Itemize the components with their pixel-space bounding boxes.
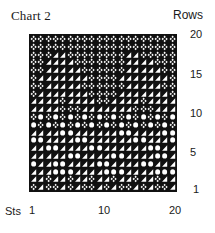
lattice-cross-cell (52, 43, 59, 51)
lattice-cross-cell (118, 43, 125, 51)
lattice-cross-cell (110, 58, 117, 66)
triangle-cell (161, 144, 168, 152)
stitch-tick-20: 20 (169, 204, 181, 216)
triangle-cell (147, 175, 154, 183)
lattice-cross-cell (37, 82, 44, 90)
lattice-cross-cell (88, 43, 95, 51)
lattice-cross-cell (154, 121, 161, 129)
lattice-cross-cell (147, 43, 154, 51)
triangle-cell (74, 90, 81, 98)
triangle-cell (125, 152, 132, 160)
triangle-cell (52, 58, 59, 66)
lattice-cross-cell (74, 58, 81, 66)
triangle-cell (88, 160, 95, 168)
lattice-cross-cell (125, 43, 132, 51)
triangle-cell (74, 160, 81, 168)
triangle-cell (125, 105, 132, 113)
triangle-cell (125, 58, 132, 66)
lattice-cross-cell (154, 35, 161, 43)
lattice-cross-cell (45, 35, 52, 43)
lattice-cross-cell (110, 35, 117, 43)
row-tick-1: 1 (193, 183, 199, 195)
triangle-cell (147, 129, 154, 137)
chart-title: Chart 2 (11, 8, 51, 24)
circle-cell (88, 121, 95, 129)
lattice-cross-cell (161, 51, 168, 59)
triangle-cell (45, 129, 52, 137)
circle-cell (118, 121, 125, 129)
lattice-cross-cell (81, 121, 88, 129)
triangle-cell (37, 97, 44, 105)
lattice-cross-cell (118, 51, 125, 59)
triangle-cell (52, 152, 59, 160)
lattice-cross-cell (118, 183, 125, 191)
triangle-cell (132, 129, 139, 137)
triangle-cell (88, 97, 95, 105)
lattice-cross-cell (96, 97, 103, 105)
lattice-cross-cell (74, 113, 81, 121)
triangle-cell (125, 136, 132, 144)
circle-cell (169, 129, 176, 137)
triangle-cell (37, 90, 44, 98)
triangle-cell (125, 90, 132, 98)
lattice-cross-cell (118, 58, 125, 66)
triangle-cell (52, 51, 59, 59)
circle-cell (169, 113, 176, 121)
triangle-cell (52, 97, 59, 105)
lattice-cross-cell (147, 51, 154, 59)
lattice-cross-cell (161, 113, 168, 121)
lattice-cross-cell (110, 74, 117, 82)
triangle-cell (154, 82, 161, 90)
triangle-cell (59, 175, 66, 183)
circle-cell (110, 168, 117, 176)
lattice-cross-cell (37, 121, 44, 129)
knitting-chart-grid (29, 34, 177, 192)
lattice-cross-cell (67, 51, 74, 59)
lattice-cross-cell (37, 58, 44, 66)
circle-cell (74, 152, 81, 160)
triangle-cell (81, 90, 88, 98)
circle-cell (154, 113, 161, 121)
triangle-cell (30, 97, 37, 105)
triangle-cell (52, 82, 59, 90)
circle-cell (96, 144, 103, 152)
triangle-cell (74, 144, 81, 152)
triangle-cell (118, 175, 125, 183)
triangle-cell (169, 175, 176, 183)
triangle-cell (37, 144, 44, 152)
lattice-cross-cell (132, 35, 139, 43)
circle-cell (37, 113, 44, 121)
triangle-cell (30, 152, 37, 160)
triangle-cell (96, 168, 103, 176)
triangle-cell (169, 152, 176, 160)
triangle-cell (103, 152, 110, 160)
triangle-cell (140, 168, 147, 176)
triangle-cell (45, 105, 52, 113)
circle-cell (67, 129, 74, 137)
triangle-cell (59, 144, 66, 152)
triangle-cell (67, 90, 74, 98)
lattice-cross-cell (45, 113, 52, 121)
triangle-cell (88, 168, 95, 176)
triangle-cell (74, 183, 81, 191)
triangle-cell (81, 144, 88, 152)
circle-cell (161, 168, 168, 176)
triangle-cell (52, 129, 59, 137)
triangle-cell (147, 58, 154, 66)
lattice-cross-cell (169, 51, 176, 59)
circle-cell (67, 152, 74, 160)
lattice-cross-cell (169, 82, 176, 90)
lattice-cross-cell (169, 74, 176, 82)
triangle-cell (161, 136, 168, 144)
lattice-cross-cell (132, 105, 139, 113)
triangle-cell (110, 160, 117, 168)
triangle-cell (125, 168, 132, 176)
lattice-cross-cell (88, 183, 95, 191)
triangle-cell (110, 136, 117, 144)
lattice-cross-cell (154, 58, 161, 66)
circle-cell (132, 121, 139, 129)
triangle-cell (45, 90, 52, 98)
triangle-cell (161, 74, 168, 82)
lattice-cross-cell (161, 82, 168, 90)
lattice-cross-cell (67, 183, 74, 191)
